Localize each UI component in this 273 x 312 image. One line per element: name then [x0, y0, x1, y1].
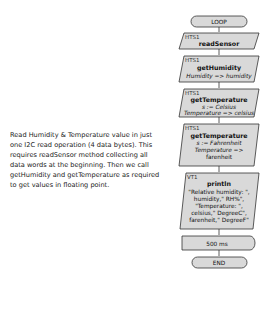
gettemperature-fahrenheit-block[interactable]: HTS1 getTemperature s := Fahrenheit Temp… [179, 124, 259, 166]
svg-text:"Temperature: ",: "Temperature: ", [195, 203, 243, 210]
svg-text:"Relative humidity: ",: "Relative humidity: ", [188, 189, 250, 196]
svg-text:VT1: VT1 [187, 174, 198, 180]
end-label: END [213, 260, 226, 266]
end-node[interactable]: END [192, 257, 247, 268]
svg-text:humidity," RH%",: humidity," RH%", [194, 196, 245, 203]
readsensor-block[interactable]: HTS1 readSensor [179, 33, 259, 49]
svg-text:HTS1: HTS1 [185, 34, 200, 40]
svg-text:Humidity => humidity: Humidity => humidity [186, 73, 252, 80]
svg-text:println: println [207, 180, 231, 188]
svg-text:getHumidity: getHumidity [197, 64, 241, 72]
delay-block[interactable]: 500 ms [182, 236, 255, 250]
svg-text:Temperature => celsius: Temperature => celsius [184, 110, 254, 117]
svg-text:farenheit: farenheit [206, 154, 233, 160]
svg-text:readSensor: readSensor [199, 40, 240, 47]
flowchart: LOOP HTS1 readSensor HTS1 getHumidity Hu… [0, 0, 273, 312]
svg-text:HTS1: HTS1 [185, 57, 200, 63]
loop-label: LOOP [211, 19, 227, 25]
gethumidity-block[interactable]: HTS1 getHumidity Humidity => humidity [179, 56, 259, 82]
loop-start-node[interactable]: LOOP [191, 16, 247, 27]
svg-text:farenheit," DegreeF": farenheit," DegreeF" [189, 217, 249, 224]
svg-text:Temperature =>: Temperature => [195, 147, 244, 154]
svg-text:500 ms: 500 ms [206, 241, 228, 247]
gettemperature-celsius-block[interactable]: HTS1 getTemperature s := Celsius Tempera… [179, 89, 259, 117]
svg-text:celsius," DegreeC",: celsius," DegreeC", [191, 210, 247, 217]
svg-text:s := Celsius: s := Celsius [202, 104, 236, 110]
svg-text:getTemperature: getTemperature [190, 132, 247, 140]
svg-text:HTS1: HTS1 [185, 125, 200, 131]
println-block[interactable]: VT1 println "Relative humidity: ", humid… [180, 173, 259, 229]
svg-text:s := Fahrenheit: s := Fahrenheit [197, 140, 243, 146]
